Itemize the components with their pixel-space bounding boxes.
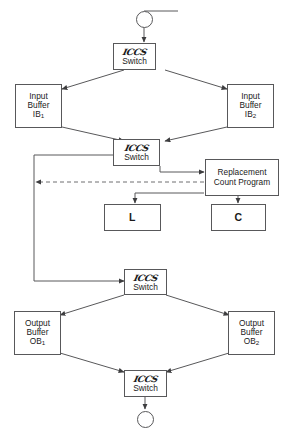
switch-node-4[interactable]: ICCS Switch [124, 370, 167, 397]
box-c[interactable]: C [211, 204, 266, 231]
edge-rcp-to-l [135, 193, 204, 203]
edge-switch2-to-rcp [160, 166, 204, 172]
rcp-line2: Count Program [214, 178, 270, 187]
output-buffer-2[interactable]: Output Buffer OB2 [228, 311, 275, 355]
replacement-count-program[interactable]: Replacement Count Program [205, 159, 279, 196]
switch-label-1: Switch [122, 57, 147, 66]
box-l[interactable]: L [104, 204, 161, 231]
edge-switch3-to-ob1 [60, 295, 124, 315]
iccs-script-label-4: ICCS [133, 375, 159, 384]
edge-ob2-to-switch4 [166, 353, 229, 372]
diagram-canvas: ICCS Switch Input Buffer IB1 Input Buffe… [0, 0, 289, 435]
input-buffer-2-id: IB2 [245, 110, 256, 120]
input-buffer-1-id: IB1 [33, 110, 44, 120]
iccs-script-label-1: ICCS [122, 48, 148, 57]
iccs-script-label-3: ICCS [133, 273, 159, 282]
edge-switch1-to-ib1 [62, 70, 124, 89]
switch-label-3: Switch [133, 283, 158, 292]
box-l-label: L [129, 212, 136, 224]
edge-switch3-to-ob2 [166, 295, 229, 315]
edge-ob1-to-switch4 [60, 353, 124, 372]
edge-ib2-to-switch2 [165, 127, 227, 141]
output-buffer-2-id: OB2 [244, 337, 259, 347]
switch-node-2[interactable]: ICCS Switch [113, 139, 160, 166]
output-buffer-1[interactable]: Output Buffer OB1 [14, 311, 61, 355]
input-buffer-2[interactable]: Input Buffer IB2 [227, 84, 274, 128]
edge-switch1-to-ib2 [165, 70, 227, 89]
box-c-label: C [235, 212, 243, 224]
switch-node-1[interactable]: ICCS Switch [113, 43, 156, 70]
input-buffer-1[interactable]: Input Buffer IB1 [15, 84, 62, 128]
iccs-script-label-2: ICCS [124, 144, 150, 153]
start-terminal [136, 11, 153, 28]
switch-label-4: Switch [133, 384, 158, 393]
output-buffer-1-id: OB1 [30, 337, 45, 347]
switch-node-3[interactable]: ICCS Switch [124, 269, 167, 295]
switch-label-2: Switch [124, 153, 149, 162]
end-terminal [137, 411, 154, 428]
